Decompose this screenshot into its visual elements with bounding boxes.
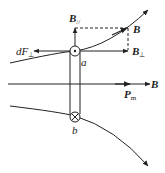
b-arrow [112, 28, 127, 35]
label-b-perp: B⊥ [132, 46, 145, 59]
label-df: dF⊥ [16, 46, 34, 59]
label-a: a [81, 57, 87, 68]
label-b-point: b [72, 125, 78, 136]
label-b-axis: B [151, 79, 158, 90]
label-pm: Pm [124, 89, 136, 102]
label-b-parallel: B// [69, 13, 80, 26]
label-b: B [133, 24, 140, 35]
